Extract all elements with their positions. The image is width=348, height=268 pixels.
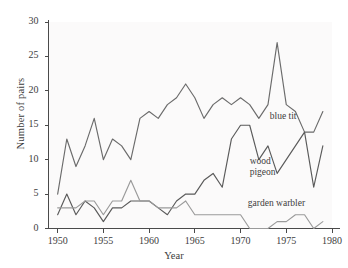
y-tick-label: 0 [13, 222, 39, 233]
y-axis-ticks [45, 22, 49, 229]
y-tick-label: 30 [13, 15, 39, 26]
series-label-pigeon: pigeon [250, 167, 276, 178]
x-axis-title: Year [0, 250, 348, 261]
chart-container: Number of pairs Year 051015202530 195019… [0, 0, 348, 268]
x-axis-ticks [58, 229, 332, 233]
x-tick-label: 1955 [83, 235, 123, 246]
y-tick-label: 25 [13, 49, 39, 60]
x-tick-label: 1975 [266, 235, 306, 246]
y-tick-label: 10 [13, 153, 39, 164]
series-label-wood: wood [250, 156, 271, 167]
x-tick-label: 1960 [129, 235, 169, 246]
y-tick-label: 20 [13, 84, 39, 95]
x-tick-label: 1965 [175, 235, 215, 246]
line-chart-plot [0, 0, 348, 268]
series-label-blue-tit: blue tit [270, 111, 297, 122]
y-tick-label: 5 [13, 187, 39, 198]
series-label-garden-warbler: garden warbler [248, 198, 305, 209]
x-tick-label: 1980 [312, 235, 348, 246]
x-tick-label: 1950 [38, 235, 78, 246]
x-tick-label: 1970 [221, 235, 261, 246]
y-tick-label: 15 [13, 118, 39, 129]
